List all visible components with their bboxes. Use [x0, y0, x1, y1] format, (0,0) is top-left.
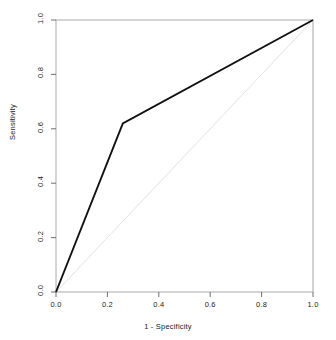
x-tick-label: 0.4	[153, 300, 164, 309]
chance-diagonal-line	[56, 20, 313, 292]
x-tick-label: 1.0	[307, 300, 318, 309]
y-tick-label: 0.8	[34, 68, 48, 77]
x-tick-label: 0.2	[102, 300, 113, 309]
roc-plot: 0.00.20.40.60.81.0 0.00.20.40.60.81.0 1 …	[0, 0, 336, 340]
y-tick-label: 1.0	[34, 14, 48, 23]
x-axis-ticks	[56, 292, 313, 297]
x-tick-label: 0.6	[205, 300, 216, 309]
data-series-layer	[56, 20, 313, 292]
plot-canvas	[0, 0, 336, 340]
y-tick-label: 0.2	[34, 232, 48, 241]
y-tick-label: 0.0	[34, 286, 48, 295]
x-tick-label: 0.8	[256, 300, 267, 309]
y-axis-ticks	[51, 20, 56, 292]
x-tick-label: 0.0	[50, 300, 61, 309]
x-axis-title: 1 - Specificity	[144, 322, 192, 331]
y-tick-label: 0.4	[34, 177, 48, 186]
y-tick-label: 0.6	[34, 123, 48, 132]
y-axis-title: Sensitivity	[8, 104, 17, 140]
